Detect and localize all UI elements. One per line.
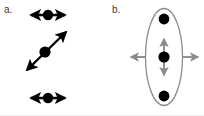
bottom-particle <box>43 93 53 103</box>
bottom-particle <box>159 91 170 102</box>
middle-particle <box>39 46 50 57</box>
panel-b-group <box>131 9 198 106</box>
middle-particle <box>158 51 169 62</box>
bottom-edge-divider <box>0 115 204 116</box>
middle-dipole <box>27 32 66 70</box>
figure-root: a. b. <box>0 0 204 116</box>
top-particle <box>43 10 53 20</box>
bottom-dipole <box>31 93 65 103</box>
diagram-canvas <box>0 0 204 116</box>
top-dipole <box>31 10 65 20</box>
panel-a-group <box>27 10 66 103</box>
top-particle <box>159 14 170 25</box>
